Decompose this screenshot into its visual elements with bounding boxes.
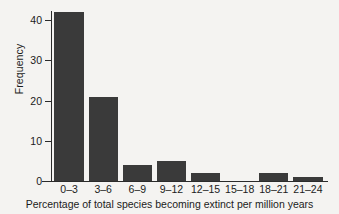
y-tick-mark bbox=[45, 60, 51, 61]
x-tick-label: 15–18 bbox=[223, 184, 257, 195]
y-tick-mark bbox=[45, 101, 51, 102]
bar bbox=[89, 97, 118, 182]
x-axis-ticks: 0–33–66–99–1212–1515–1818–2121–24 bbox=[52, 184, 325, 198]
histogram-figure: Frequency 010203040 0–33–66–99–1212–1515… bbox=[0, 0, 339, 214]
y-tick-label: 10 bbox=[20, 136, 42, 147]
x-tick-label: 21–24 bbox=[291, 184, 325, 195]
x-tick-label: 0–3 bbox=[52, 184, 86, 195]
x-axis-line bbox=[42, 181, 328, 182]
bar bbox=[191, 173, 220, 181]
x-tick-label: 9–12 bbox=[154, 184, 188, 195]
y-tick-mark bbox=[45, 20, 51, 21]
bar bbox=[157, 161, 186, 181]
bar bbox=[293, 177, 322, 181]
bar bbox=[259, 173, 288, 181]
y-tick-mark bbox=[45, 181, 51, 182]
bar bbox=[123, 165, 152, 181]
y-tick-label: 20 bbox=[20, 96, 42, 107]
bar bbox=[54, 12, 83, 181]
y-tick-mark bbox=[45, 141, 51, 142]
y-tick-label: 30 bbox=[20, 55, 42, 66]
x-axis-title: Percentage of total species becoming ext… bbox=[0, 198, 339, 210]
y-tick-label: 0 bbox=[20, 176, 42, 187]
x-tick-label: 6–9 bbox=[120, 184, 154, 195]
bar-series bbox=[52, 12, 325, 181]
y-tick-label: 40 bbox=[20, 15, 42, 26]
x-tick-label: 12–15 bbox=[189, 184, 223, 195]
x-tick-label: 18–21 bbox=[257, 184, 291, 195]
x-tick-label: 3–6 bbox=[86, 184, 120, 195]
